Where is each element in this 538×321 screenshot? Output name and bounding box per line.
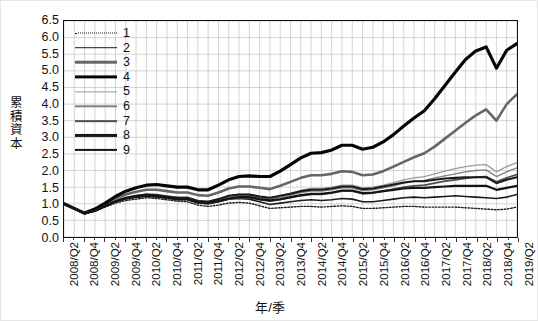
legend-swatch-icon	[73, 129, 119, 141]
y-axis-tick-label: 4.5	[42, 80, 59, 94]
x-axis-tick-mark	[259, 238, 260, 240]
y-axis-tick-label: 0.5	[42, 214, 59, 228]
legend-swatch-icon	[73, 42, 119, 54]
x-axis-tick-mark	[322, 238, 323, 240]
x-axis-tick-label: 2018/Q4	[502, 242, 514, 286]
y-axis-tick-label: 2.5	[42, 147, 59, 161]
y-axis-tick-label: 5.5	[42, 47, 59, 61]
legend-swatch-icon	[73, 115, 119, 127]
y-axis-tick-label: 3.5	[42, 114, 59, 128]
x-axis-tick-label: 2016/Q4	[419, 242, 431, 286]
x-axis-tick-mark	[384, 238, 385, 240]
x-axis-tick-mark	[425, 238, 426, 240]
legend-item-5[interactable]: 5	[73, 84, 145, 99]
x-axis-tick-mark	[135, 238, 136, 240]
x-axis-tick-mark	[363, 238, 364, 240]
x-axis-tick-label: 2010/Q4	[171, 242, 183, 286]
y-axis-tick-label: 1.5	[42, 181, 59, 195]
legend-swatch-icon	[73, 27, 119, 39]
x-axis-tick-label: 2015/Q2	[357, 242, 369, 286]
legend-swatch-icon	[73, 86, 119, 98]
x-axis-tick-label: 2013/Q4	[295, 242, 307, 286]
x-axis-tick-label: 2011/Q4	[212, 242, 224, 285]
series-line-1	[64, 198, 517, 213]
legend-label: 6	[123, 100, 130, 113]
x-axis-tick-mark	[446, 238, 447, 240]
x-axis-tick-label: 2017/Q4	[461, 242, 473, 286]
legend-swatch-icon	[73, 71, 119, 83]
y-axis-tick-label: 0.0	[42, 231, 59, 245]
x-axis-tick-label: 2013/Q2	[274, 242, 286, 286]
x-axis-tick-mark	[156, 238, 157, 240]
legend-item-6[interactable]: 6	[73, 99, 145, 114]
legend-label: 4	[123, 71, 130, 84]
x-axis-tick-mark	[197, 238, 198, 240]
x-axis-tick-mark	[177, 238, 178, 240]
x-axis-tick-label: 2010/Q2	[150, 242, 162, 286]
x-axis-tick-mark	[487, 238, 488, 240]
x-axis-tick-mark	[218, 238, 219, 240]
legend-label: 3	[123, 56, 130, 69]
legend-label: 7	[123, 115, 130, 128]
x-axis-tick-mark	[73, 238, 74, 240]
x-axis-tick-mark	[94, 238, 95, 240]
x-axis-tick-label: 2015/Q4	[378, 242, 390, 286]
x-axis-tick-mark	[239, 238, 240, 240]
chart-figure: 累積資本 6.56.05.55.04.54.03.53.02.52.01.51.…	[0, 0, 538, 321]
legend-label: 1	[123, 27, 130, 40]
x-axis-tick-label: 2018/Q2	[481, 242, 493, 286]
y-axis-tick-label: 2.0	[42, 164, 59, 178]
legend-item-7[interactable]: 7	[73, 114, 145, 129]
x-axis-tick-label: 2012/Q4	[254, 242, 266, 286]
x-axis-tick-label: 2009/Q4	[130, 242, 142, 286]
x-axis-tick-mark	[280, 238, 281, 240]
x-axis-tick-mark	[518, 238, 519, 242]
y-axis-tick-label: 6.5	[42, 13, 59, 27]
x-axis-tick-mark	[301, 238, 302, 240]
x-axis-tick-label: 2009/Q2	[109, 242, 121, 286]
y-axis-tick-label: 4.0	[42, 97, 59, 111]
x-axis-tick-mark	[342, 238, 343, 240]
x-axis-tick-label: 2016/Q2	[399, 242, 411, 286]
x-axis-tick-mark	[115, 238, 116, 240]
legend-label: 9	[123, 144, 130, 157]
y-axis-tick-label: 3.0	[42, 130, 59, 144]
legend-item-1[interactable]: 1	[73, 26, 145, 41]
x-axis-tick-label: 2014/Q4	[336, 242, 348, 286]
y-axis-tick-label: 1.0	[42, 197, 59, 211]
x-axis-tick-label: 2019/Q2	[523, 242, 535, 286]
legend-item-4[interactable]: 4	[73, 70, 145, 85]
legend-swatch-icon	[73, 100, 119, 112]
x-axis-tick-label: 2008/Q4	[88, 242, 100, 286]
legend-item-3[interactable]: 3	[73, 55, 145, 70]
y-axis-tick-label: 6.0	[42, 30, 59, 44]
legend-label: 2	[123, 42, 130, 55]
x-axis-tick-mark	[508, 238, 509, 240]
x-axis-tick-label: 2011/Q2	[192, 242, 204, 285]
x-axis-tick-label: 2008/Q2	[68, 242, 80, 286]
x-axis-tick-mark	[466, 238, 467, 240]
legend-label: 8	[123, 129, 130, 142]
legend-label: 5	[123, 85, 130, 98]
legend-item-8[interactable]: 8	[73, 128, 145, 143]
legend-item-2[interactable]: 2	[73, 41, 145, 56]
chart-legend: 123456789	[73, 26, 145, 157]
y-axis-tick-label: 5.0	[42, 63, 59, 77]
legend-swatch-icon	[73, 144, 119, 156]
x-axis-tick-label: 2014/Q2	[316, 242, 328, 286]
x-axis-tick-mark	[404, 238, 405, 240]
legend-swatch-icon	[73, 56, 119, 68]
x-axis-tick-labels: 2008/Q22008/Q42009/Q22009/Q42010/Q22010/…	[63, 242, 518, 304]
x-axis-tick-label: 2017/Q2	[440, 242, 452, 286]
legend-item-9[interactable]: 9	[73, 143, 145, 158]
y-axis-tick-labels: 6.56.05.55.04.54.03.53.02.52.01.51.00.50…	[23, 1, 61, 321]
x-axis-title: 年/季	[1, 297, 538, 316]
x-axis-tick-label: 2012/Q2	[233, 242, 245, 286]
